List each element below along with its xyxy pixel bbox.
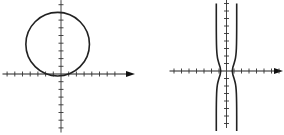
x-axis-arrow-icon — [126, 71, 135, 77]
x-axis-arrow-icon — [274, 68, 283, 74]
vertical-curves-plot — [141, 0, 283, 135]
right-graph-panel: Vertical curves graph — [141, 0, 283, 135]
right-branch-curve — [232, 4, 236, 132]
circle-curve — [26, 12, 90, 76]
left-branch-curve — [216, 4, 220, 132]
left-graph-panel: Circle graph — [0, 0, 141, 135]
axes — [170, 0, 284, 128]
axes — [2, 0, 135, 132]
circle-plot — [0, 0, 141, 135]
